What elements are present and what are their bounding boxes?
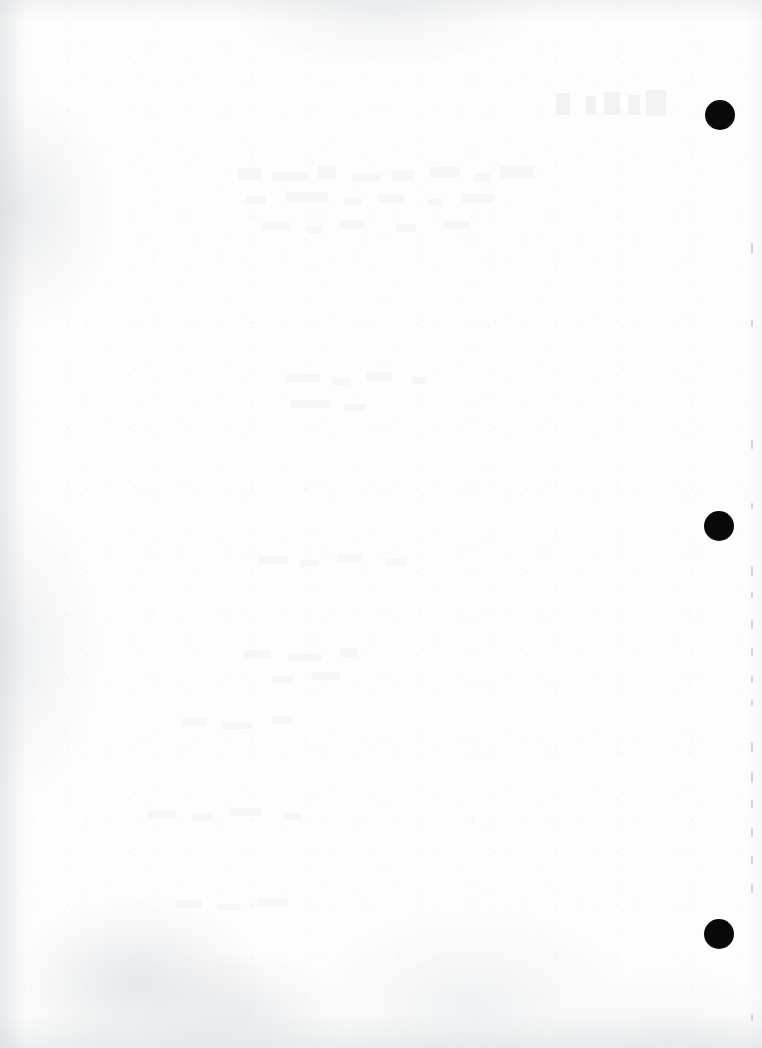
ghost-mark-6 bbox=[238, 168, 262, 180]
edge-tick-5 bbox=[751, 566, 753, 576]
ghost-mark-23 bbox=[396, 224, 416, 232]
ghost-mark-49 bbox=[258, 898, 288, 906]
ghost-mark-37 bbox=[340, 648, 358, 657]
ghost-mark-36 bbox=[288, 654, 322, 661]
edge-tick-14 bbox=[751, 828, 753, 837]
edge-tick-16 bbox=[751, 884, 753, 893]
scanned-page bbox=[0, 0, 762, 1048]
ghost-mark-27 bbox=[366, 372, 392, 381]
ghost-mark-19 bbox=[462, 193, 494, 203]
ghost-mark-29 bbox=[290, 400, 330, 408]
ghost-mark-10 bbox=[392, 170, 414, 181]
edge-tick-8 bbox=[751, 648, 753, 656]
ghost-mark-38 bbox=[272, 676, 294, 683]
edge-tick-4 bbox=[751, 503, 753, 509]
ghost-mark-11 bbox=[430, 167, 460, 177]
ghost-mark-42 bbox=[272, 716, 292, 724]
edge-tick-9 bbox=[751, 676, 753, 683]
ghost-mark-47 bbox=[176, 900, 202, 908]
binding-mark-1 bbox=[705, 100, 735, 130]
edge-tick-6 bbox=[751, 592, 753, 598]
ghost-mark-22 bbox=[340, 220, 364, 229]
ghost-mark-44 bbox=[192, 814, 212, 821]
binding-mark-3 bbox=[704, 919, 734, 949]
ghost-mark-46 bbox=[284, 813, 302, 820]
ghost-mark-21 bbox=[306, 226, 322, 233]
edge-tick-12 bbox=[751, 772, 753, 783]
ghost-mark-15 bbox=[286, 192, 328, 202]
ghost-mark-2 bbox=[586, 96, 596, 115]
ghost-mark-5 bbox=[646, 90, 666, 116]
ghost-mark-32 bbox=[300, 560, 318, 567]
ghost-mark-9 bbox=[352, 174, 380, 182]
ghost-mark-40 bbox=[182, 718, 206, 726]
binding-mark-2 bbox=[704, 511, 734, 541]
edge-tick-13 bbox=[751, 800, 753, 808]
edge-tick-11 bbox=[751, 742, 753, 752]
paper-grain-texture bbox=[0, 0, 762, 1048]
ghost-mark-18 bbox=[428, 199, 442, 206]
ghost-mark-26 bbox=[332, 378, 350, 385]
ghost-mark-20 bbox=[262, 222, 290, 230]
edge-tick-2 bbox=[751, 320, 753, 327]
edge-tick-15 bbox=[751, 856, 753, 864]
edge-tick-1 bbox=[751, 243, 753, 254]
ghost-mark-17 bbox=[378, 194, 404, 203]
ghost-mark-8 bbox=[318, 166, 336, 179]
ghost-mark-13 bbox=[500, 166, 534, 178]
ghost-mark-45 bbox=[230, 808, 262, 816]
ghost-mark-16 bbox=[344, 198, 362, 205]
ghost-mark-12 bbox=[474, 173, 490, 182]
edge-tick-17 bbox=[751, 1014, 753, 1021]
ghost-mark-35 bbox=[244, 650, 270, 658]
ghost-mark-33 bbox=[338, 554, 362, 562]
ghost-mark-34 bbox=[386, 559, 406, 566]
ghost-mark-30 bbox=[344, 404, 366, 411]
ghost-mark-25 bbox=[286, 374, 320, 383]
ghost-mark-4 bbox=[628, 95, 640, 115]
ghost-mark-24 bbox=[444, 221, 470, 229]
ghost-mark-7 bbox=[272, 172, 308, 181]
ghost-mark-28 bbox=[412, 377, 426, 384]
edge-tick-3 bbox=[751, 440, 753, 449]
ghost-mark-39 bbox=[312, 672, 340, 680]
ghost-mark-14 bbox=[246, 196, 266, 204]
ghost-mark-43 bbox=[148, 810, 176, 818]
edge-tick-7 bbox=[751, 620, 753, 629]
ghost-mark-3 bbox=[604, 92, 620, 115]
ghost-mark-41 bbox=[222, 722, 252, 729]
ghost-mark-31 bbox=[258, 556, 288, 564]
ghost-mark-1 bbox=[556, 93, 570, 115]
edge-tick-10 bbox=[751, 700, 753, 706]
ghost-mark-48 bbox=[218, 904, 240, 911]
